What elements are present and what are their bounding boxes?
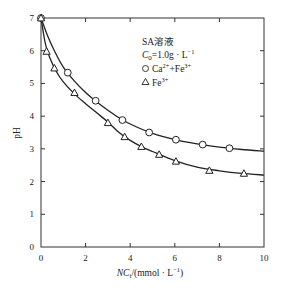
legend-concentration: C0=1.0g · L−1 xyxy=(142,48,194,62)
y-axis-title: pH xyxy=(12,127,22,139)
y-tick-label: 5 xyxy=(30,78,35,88)
x-title-close: ) xyxy=(180,268,183,279)
data-point-fe xyxy=(51,64,58,70)
legend-plus-fe: +Fe xyxy=(169,64,184,74)
y-tick-label: 1 xyxy=(30,209,35,219)
x-tick-label: 6 xyxy=(173,253,178,263)
data-point-fe xyxy=(138,143,145,149)
x-tick-label: 0 xyxy=(39,253,44,263)
data-point-ca-fe xyxy=(199,141,206,148)
data-point-ca-fe xyxy=(92,97,99,104)
data-point-ca-fe xyxy=(226,145,233,152)
legend-fe3-sup: 3+ xyxy=(162,76,169,83)
x-tick-label: 4 xyxy=(128,253,133,263)
x-tick-label: 2 xyxy=(83,253,88,263)
tick-labels: 024681001234567 xyxy=(30,13,270,263)
y-tick-label: 0 xyxy=(30,242,35,252)
x-tick-label: 8 xyxy=(217,253,222,263)
data-point-ca-fe xyxy=(146,129,153,136)
y-tick-label: 6 xyxy=(30,46,35,56)
x-title-sup: −1 xyxy=(173,266,180,273)
ph-chart: 024681001234567 pH NCi/(mmol · L−1) SA溶液… xyxy=(0,0,282,293)
y-tick-label: 2 xyxy=(30,177,35,187)
data-point-ca-fe xyxy=(119,117,126,124)
data-point-ca-fe xyxy=(64,69,71,76)
legend-title: SA溶液 xyxy=(142,36,174,47)
data-point-fe xyxy=(156,151,163,157)
data-point-ca-fe xyxy=(173,136,180,143)
x-title-italic: NC xyxy=(116,268,130,278)
legend-entry-fe: Fe3+ xyxy=(152,76,169,88)
legend-fe-sup: 3+ xyxy=(184,62,191,69)
legend-c-sup: −1 xyxy=(188,48,195,55)
x-axis-title: NCi/(mmol · L−1) xyxy=(116,266,183,280)
y-tick-label: 7 xyxy=(30,13,35,23)
legend-fe: Fe xyxy=(152,78,162,88)
legend-c-rest: =1.0g · L xyxy=(152,50,188,60)
y-tick-label: 3 xyxy=(30,144,35,154)
legend-entry-ca-fe: Ca2++Fe3+ xyxy=(152,62,192,74)
legend-circle-marker xyxy=(143,66,149,72)
x-tick-label: 10 xyxy=(260,253,270,263)
data-point-fe xyxy=(172,158,179,164)
legend: SA溶液 C0=1.0g · L−1 Ca2++Fe3+ Fe3+ xyxy=(142,36,194,88)
y-tick-label: 4 xyxy=(30,111,35,121)
x-title-rest: /(mmol · L xyxy=(131,268,173,279)
legend-triangle-marker xyxy=(142,79,149,85)
